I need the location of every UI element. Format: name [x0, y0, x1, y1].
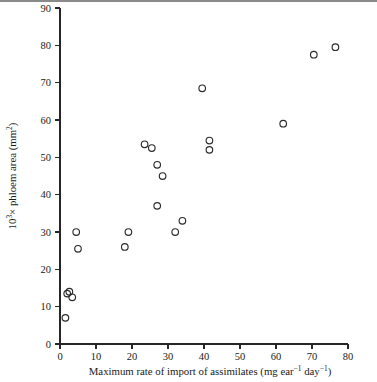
y-tick-label: 80 — [41, 40, 52, 51]
y-tick-label: 40 — [41, 189, 52, 200]
y-tick-label: 90 — [41, 3, 52, 14]
scatter-plot-canvas: 0102030405060708090 01020304050607080 Ma… — [0, 0, 377, 382]
top-rule-divider — [0, 0, 377, 2]
data-point — [154, 162, 161, 169]
data-point — [141, 141, 148, 148]
data-point — [122, 244, 129, 251]
data-point — [159, 173, 166, 180]
data-point — [311, 51, 318, 58]
x-tick-label: 70 — [307, 351, 318, 362]
data-point — [154, 203, 161, 210]
x-tick-label: 30 — [163, 351, 174, 362]
y-tick-label: 60 — [41, 115, 52, 126]
x-axis-title: Maximum rate of import of assimilates (m… — [89, 364, 332, 378]
x-tick-label: 20 — [127, 351, 138, 362]
data-point — [199, 85, 206, 92]
y-tick-label: 10 — [41, 301, 52, 312]
data-point — [206, 137, 213, 144]
data-point — [62, 315, 69, 322]
x-axis-ticks: 01020304050607080 — [57, 344, 353, 362]
scatter-plot-figure: 0102030405060708090 01020304050607080 Ma… — [0, 0, 377, 382]
y-tick-label: 50 — [41, 152, 52, 163]
x-tick-label: 60 — [271, 351, 282, 362]
y-tick-label: 30 — [41, 227, 52, 238]
data-point — [172, 229, 179, 236]
data-point — [75, 246, 82, 253]
data-point — [332, 44, 339, 51]
data-point — [149, 145, 156, 152]
y-tick-label: 0 — [46, 339, 51, 350]
x-tick-label: 80 — [343, 351, 354, 362]
data-point — [206, 147, 213, 154]
y-axis-ticks: 0102030405060708090 — [41, 3, 61, 350]
svg-text:103× phloem area (mm2): 103× phloem area (mm2) — [5, 122, 19, 229]
data-point — [73, 229, 80, 236]
data-point — [125, 229, 132, 236]
x-tick-label: 10 — [91, 351, 102, 362]
data-point — [280, 120, 287, 127]
x-tick-label: 40 — [199, 351, 210, 362]
y-tick-label: 70 — [41, 77, 52, 88]
x-tick-label: 50 — [235, 351, 246, 362]
data-point — [179, 218, 186, 225]
axis-lines — [60, 8, 348, 344]
axes-group — [60, 8, 348, 344]
x-tick-label: 0 — [57, 351, 62, 362]
data-point — [69, 294, 76, 301]
y-tick-label: 20 — [41, 264, 52, 275]
data-points-group — [62, 44, 339, 321]
y-axis-title: 103× phloem area (mm2) — [5, 122, 19, 229]
